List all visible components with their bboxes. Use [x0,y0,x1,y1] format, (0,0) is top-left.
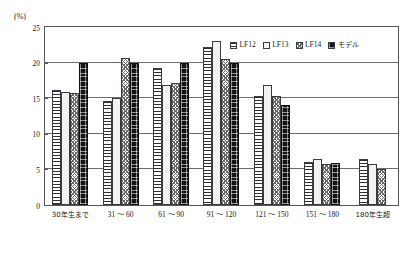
y-tick-label: 20 [33,60,41,68]
bar-group [146,27,196,205]
y-axis-unit-label: (%) [14,12,26,21]
x-tick-label: 31 ～ 60 [108,210,134,220]
legend-label: LF14 [305,41,321,49]
y-tick-label: 25 [33,25,41,33]
x-tick-label: 180年生超 [356,210,390,220]
bar-group [95,27,145,205]
legend-item: モデル [328,41,359,49]
legend-swatch-icon [263,42,270,49]
bar-chart: (%) 0510152025 30年生まで31 ～ 6061 ～ 9091 ～ … [0,0,415,254]
legend: LF12LF13LF14モデル [228,40,361,50]
y-tick-label: 5 [36,167,40,175]
legend-swatch-icon [328,42,335,49]
x-tick-label: 91 ～ 120 [207,210,237,220]
bar-group [348,27,398,205]
x-tick-label: 61 ～ 90 [158,210,184,220]
bar [52,90,61,205]
bar [61,92,70,205]
y-tick-mark [44,63,48,64]
bar [130,63,139,205]
bar-group [297,27,347,205]
bar [254,96,263,205]
bar [322,164,331,205]
bar [272,96,281,205]
y-tick-label: 15 [33,96,41,104]
bar [180,63,189,205]
y-tick-label: 0 [36,203,40,211]
bar [377,169,386,205]
y-tick-mark [44,169,48,170]
legend-swatch-icon [230,42,237,49]
bar [230,63,239,205]
bar [212,41,221,205]
legend-label: LF12 [240,41,256,49]
bar [121,58,130,205]
bar [313,159,322,205]
bar-group [45,27,95,205]
x-tick-label: 151 ～ 180 [306,210,339,220]
bar [281,105,290,205]
bar [103,101,112,205]
bar [112,98,121,206]
legend-item: LF13 [263,41,289,49]
bar-group [196,27,246,205]
legend-label: モデル [338,41,359,49]
bars-layer [45,27,398,205]
y-axis: 0510152025 [18,26,40,206]
y-tick-label: 10 [33,131,41,139]
bar [171,83,180,205]
bar [221,59,230,205]
bar [162,85,171,205]
x-axis: 30年生まで31 ～ 6061 ～ 9091 ～ 120121 ～ 150151… [45,210,398,228]
bar [153,68,162,205]
bar-group [247,27,297,205]
bar [359,159,368,205]
bar [79,63,88,205]
legend-item: LF12 [230,41,256,49]
y-tick-mark [44,134,48,135]
x-tick-label: 121 ～ 150 [255,210,288,220]
y-tick-mark [44,98,48,99]
bar [368,164,377,205]
bar [331,163,340,205]
bar [304,162,313,205]
legend-item: LF14 [296,41,322,49]
bar [203,47,212,205]
bar [70,93,79,205]
x-tick-label: 30年生まで [52,210,89,220]
legend-swatch-icon [296,42,303,49]
legend-label: LF13 [272,41,288,49]
bar [263,85,272,205]
